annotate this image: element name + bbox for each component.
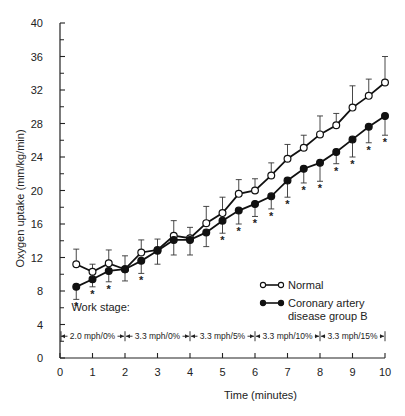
- stage-arrowhead: [380, 334, 384, 338]
- data-point: [300, 165, 307, 172]
- y-tick-label: 40: [31, 17, 43, 29]
- significance-asterisk: *: [220, 234, 225, 246]
- data-point: [268, 172, 275, 179]
- significance-asterisk: *: [350, 158, 355, 170]
- significance-asterisk: *: [74, 300, 79, 312]
- axes: 0481216202428323640 012345678910 Time (m…: [14, 17, 391, 401]
- legend-marker: [278, 300, 283, 305]
- data-point: [317, 131, 324, 138]
- stage-arrowhead: [191, 334, 195, 338]
- data-point: [219, 217, 226, 224]
- x-tick-label: 2: [122, 366, 128, 378]
- x-tick-label: 1: [89, 366, 95, 378]
- series-coronary-artery-disease: [73, 113, 389, 300]
- data-point: [300, 144, 307, 151]
- stage-arrowhead: [315, 334, 319, 338]
- x-tick-label: 0: [57, 366, 63, 378]
- data-point: [170, 237, 177, 244]
- y-tick-label: 12: [31, 252, 43, 264]
- data-point: [235, 190, 242, 197]
- data-point: [105, 268, 112, 275]
- oxygen-uptake-chart: 0481216202428323640 012345678910 Time (m…: [0, 0, 405, 416]
- data-point: [382, 79, 389, 86]
- data-point: [333, 149, 340, 156]
- data-point: [235, 207, 242, 214]
- legend-label: disease group B: [288, 310, 368, 322]
- y-tick-label: 0: [37, 352, 43, 364]
- legend-marker: [260, 300, 265, 305]
- data-point: [138, 249, 145, 256]
- x-tick-label: 7: [284, 366, 290, 378]
- series-line: [76, 82, 385, 271]
- data-point: [89, 276, 96, 283]
- x-axis-title: Time (minutes): [224, 389, 297, 401]
- significance-asterisk: *: [107, 283, 112, 295]
- stage-label: 3.3 mph/0%: [135, 331, 181, 341]
- series-normal: [73, 57, 389, 276]
- data-point: [382, 113, 389, 120]
- data-point: [187, 237, 194, 244]
- significance-asterisk: *: [302, 184, 307, 196]
- significance-asterisk: *: [383, 136, 388, 148]
- stage-arrowhead: [185, 334, 189, 338]
- data-point: [252, 187, 259, 194]
- stage-label: 3.3 mph/15%: [327, 331, 378, 341]
- data-point: [105, 260, 112, 267]
- legend-label: Coronary artery: [288, 297, 365, 309]
- data-point: [317, 159, 324, 166]
- significance-asterisk: *: [285, 198, 290, 210]
- significance-asterisk: *: [318, 182, 323, 194]
- y-tick-label: 20: [31, 185, 43, 197]
- data-point: [138, 257, 145, 264]
- x-tick-label: 3: [154, 366, 160, 378]
- significance-asterisk: *: [334, 165, 339, 177]
- x-tick-label: 5: [219, 366, 225, 378]
- y-axis-title: Oxygen uptake (mm/kg/min): [14, 129, 26, 267]
- data-point: [365, 92, 372, 99]
- legend-label: Normal: [288, 279, 323, 291]
- y-tick-label: 8: [37, 285, 43, 297]
- stage-label: 3.3 mph/10%: [262, 331, 313, 341]
- data-point: [203, 220, 210, 227]
- y-tick-label: 16: [31, 218, 43, 230]
- significance-asterisk: *: [367, 144, 372, 156]
- y-tick-label: 24: [31, 151, 43, 163]
- legend-marker: [260, 282, 265, 287]
- y-tick-label: 28: [31, 118, 43, 130]
- data-point: [333, 122, 340, 129]
- series-layer: [73, 57, 389, 300]
- data-point: [268, 193, 275, 200]
- legend-item: Coronary arterydisease group B: [260, 297, 367, 322]
- data-point: [349, 136, 356, 143]
- x-tick-label: 8: [317, 366, 323, 378]
- y-tick-label: 36: [31, 51, 43, 63]
- data-point: [349, 104, 356, 111]
- y-tick-label: 32: [31, 84, 43, 96]
- data-point: [89, 268, 96, 275]
- data-point: [252, 201, 259, 208]
- stage-arrowhead: [321, 334, 325, 338]
- work-stage-title: Work stage:: [71, 301, 130, 313]
- data-point: [154, 247, 161, 254]
- legend: NormalCoronary arterydisease group B: [260, 279, 367, 322]
- data-point: [73, 261, 80, 268]
- series-line: [76, 116, 385, 287]
- stage-arrowhead: [120, 334, 124, 338]
- x-tick-label: 4: [187, 366, 193, 378]
- stage-label: 3.3 mph/5%: [200, 331, 246, 341]
- data-point: [284, 155, 291, 162]
- data-point: [219, 210, 226, 217]
- x-tick-label: 9: [349, 366, 355, 378]
- stage-arrowhead: [250, 334, 254, 338]
- significance-asterisk: *: [253, 217, 258, 229]
- significance-asterisk: *: [237, 225, 242, 237]
- legend-marker: [278, 282, 283, 287]
- data-point: [73, 283, 80, 290]
- significance-markers: ***************: [74, 136, 388, 312]
- x-ticks: 012345678910: [57, 353, 391, 378]
- data-point: [284, 177, 291, 184]
- significance-asterisk: *: [269, 210, 274, 222]
- x-tick-label: 6: [252, 366, 258, 378]
- legend-item: Normal: [260, 279, 323, 291]
- data-point: [122, 266, 129, 273]
